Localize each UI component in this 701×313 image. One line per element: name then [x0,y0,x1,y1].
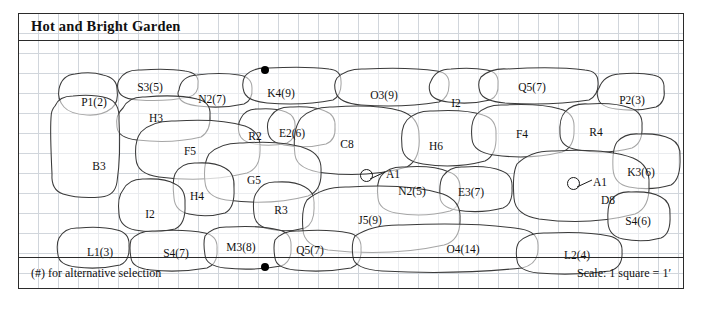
bed-label: S4(6) [625,215,651,227]
bed-label: H6 [429,140,443,152]
bed-label: S3(5) [137,81,163,93]
bed-label: K4(9) [267,87,294,99]
bed-label: J5(9) [358,214,382,226]
alternative-selection-note: (#) for alternative selection [31,266,161,281]
bed-label: O3(9) [370,89,397,101]
bed-shape [51,95,120,197]
bed-label: R3 [274,204,287,216]
bed-label: Q5(7) [296,244,323,256]
scale-note: Scale: 1 square = 1′ [577,266,671,281]
garden-plan: Hot and Bright Garden [18,13,684,289]
bed-label: I2 [451,97,461,109]
bed-label: E2(6) [279,127,305,139]
bed-label: P2(3) [619,94,645,106]
plan-footer-bar: (#) for alternative selection Scale: 1 s… [19,257,683,288]
bed-label: Q5(7) [518,81,545,93]
accent-label: A1 [386,168,400,180]
bed-label: I2 [145,208,155,220]
bed-label: E3(7) [458,186,484,198]
bed-label: F4 [516,128,528,140]
bed-label: R4 [589,126,602,138]
accent-label: A1 [593,176,607,188]
bed-label: P1(2) [81,96,107,108]
bed-label: N2(7) [198,93,225,105]
bed-label: N2(5) [398,185,425,197]
bed-label: D8 [601,194,615,206]
bed-label: H3 [149,112,163,124]
bed-label: R2 [248,130,261,142]
bed-label: K3(6) [627,166,654,178]
leader-line [370,171,386,181]
bed-label: B3 [92,160,105,172]
bed-label: G5 [247,174,261,186]
bed-shape [119,179,186,232]
bed-label: C8 [340,138,353,150]
leader-line [577,179,593,189]
bed-label: M3(8) [226,241,255,253]
bed-label: O4(14) [446,243,479,255]
bed-label: H4 [190,190,204,202]
top-center-dot [261,66,269,74]
bed-label: F5 [184,145,196,157]
